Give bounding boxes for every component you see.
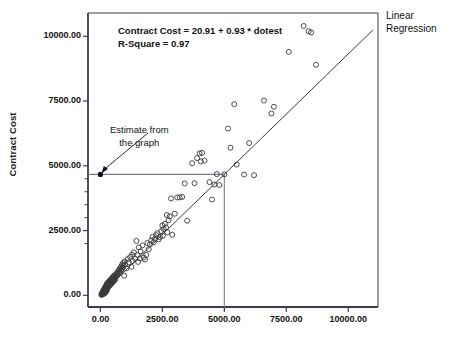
data-point — [271, 104, 276, 109]
data-point — [170, 232, 175, 237]
data-point — [247, 141, 252, 146]
data-points — [99, 23, 319, 297]
data-point — [185, 218, 190, 223]
chart-container: Contract Cost 0.002500.005000.007500.001… — [0, 0, 458, 348]
regression-fit-line — [100, 30, 373, 295]
regression-line — [100, 30, 373, 295]
estimate-marker — [98, 172, 103, 177]
data-point — [228, 145, 233, 150]
data-point — [134, 238, 139, 243]
annotation-arrow — [101, 133, 148, 173]
data-point — [190, 161, 195, 166]
data-point — [172, 211, 177, 216]
data-point — [242, 172, 247, 177]
data-point — [165, 230, 170, 235]
data-point — [314, 62, 319, 67]
data-point — [226, 126, 231, 131]
data-point — [286, 49, 291, 54]
data-point — [207, 180, 212, 185]
scatter-plot-canvas — [0, 0, 458, 348]
data-point — [232, 102, 237, 107]
data-point — [252, 173, 257, 178]
data-point — [192, 181, 197, 186]
data-point — [261, 98, 266, 103]
estimate-point-marker — [98, 172, 103, 177]
data-point — [301, 23, 306, 28]
data-point — [209, 197, 214, 202]
data-point — [269, 111, 274, 116]
data-point — [169, 196, 174, 201]
data-point — [182, 181, 187, 186]
data-point — [217, 182, 222, 187]
data-point — [164, 213, 169, 218]
annotation-arrow-shaft — [104, 133, 148, 169]
